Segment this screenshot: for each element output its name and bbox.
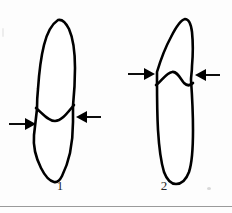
- right-arrowhead-icon: [76, 111, 87, 123]
- bottom-divider: [0, 206, 232, 207]
- tooth-figure-2: [128, 19, 220, 184]
- arrow-left-panel-1: [9, 118, 36, 130]
- scan-speck: [207, 187, 211, 190]
- figure-container: 1 2: [0, 0, 232, 213]
- arrow-right-panel-1: [76, 111, 101, 123]
- arrow-right-panel-2: [195, 69, 220, 81]
- left-arrowhead-icon: [144, 68, 155, 80]
- tooth-1-outline: [34, 20, 75, 182]
- right-arrowhead-icon: [195, 69, 206, 81]
- tooth-diagram-svg: [0, 0, 232, 213]
- arrow-left-panel-2: [128, 68, 155, 80]
- tooth-2-outline: [157, 19, 193, 184]
- tooth-figure-1: [9, 20, 101, 182]
- figure-label-2: 2: [152, 178, 176, 194]
- scan-speck: [2, 28, 4, 37]
- figure-label-1: 1: [48, 178, 72, 194]
